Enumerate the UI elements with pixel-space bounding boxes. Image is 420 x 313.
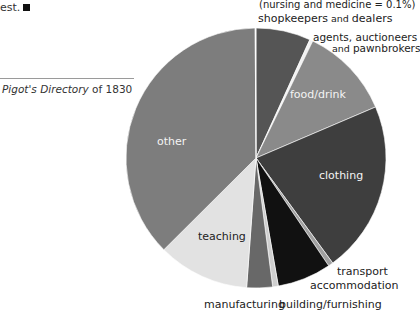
pie-slices: [126, 28, 386, 288]
label-agents-line2: and pawnbrokers: [332, 42, 420, 54]
slice-label-other: other: [157, 135, 187, 148]
label-accommodation: accommodation: [310, 279, 399, 292]
label-building-furnishing: building/furnishing: [279, 298, 382, 311]
label-manufacturing: manufacturing: [204, 298, 285, 311]
slice-label-teaching: teaching: [198, 230, 246, 243]
slice-label-food-drink: food/drink: [290, 88, 347, 101]
label-transport: transport: [337, 265, 388, 278]
note-nursing-medicine: (nursing and medicine = 0.1%): [259, 0, 415, 10]
slice-label-clothing: clothing: [319, 169, 363, 182]
label-shopkeepers: shopkeepers and dealers: [258, 12, 392, 25]
